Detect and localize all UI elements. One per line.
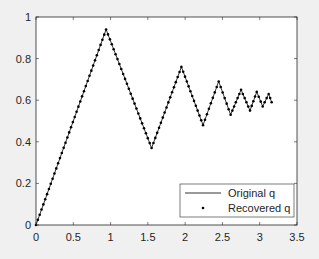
chart-figure: 00.511.522.533.500.20.40.60.81 Original … (0, 0, 319, 259)
x-tick-label: 1 (108, 231, 114, 243)
y-tick-label: 0.8 (16, 53, 31, 65)
x-tick-label: 3 (257, 231, 263, 243)
x-tick-label: 0.5 (66, 231, 81, 243)
y-tick-label: 1 (25, 11, 31, 23)
legend: Original q Recovered q (180, 184, 294, 217)
x-tick-label: 2.5 (215, 231, 230, 243)
legend-dot-icon (202, 207, 205, 210)
x-tick-label: 3.5 (289, 231, 304, 243)
x-tick-label: 1.5 (140, 231, 155, 243)
legend-recovered-label: Recovered q (228, 202, 290, 214)
legend-original-label: Original q (228, 187, 275, 199)
y-tick-label: 0.4 (16, 136, 31, 148)
x-tick-label: 2 (182, 231, 188, 243)
x-tick-label: 0 (33, 231, 39, 243)
y-tick-label: 0.2 (16, 177, 31, 189)
y-tick-label: 0 (25, 219, 31, 231)
y-tick-label: 0.6 (16, 94, 31, 106)
